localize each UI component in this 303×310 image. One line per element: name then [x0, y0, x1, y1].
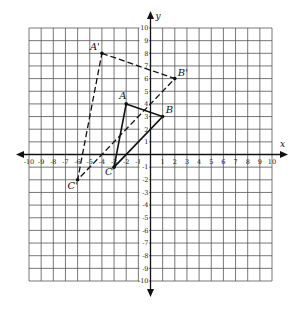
y-tick-label: -8: [142, 252, 148, 260]
y-tick-label: -9: [142, 265, 148, 273]
x-tick-label: 3: [185, 158, 189, 166]
vertex-point: [100, 52, 104, 56]
vertex-label: B': [177, 67, 188, 78]
y-tick-label: 5: [144, 88, 148, 96]
vertex-point: [161, 115, 165, 119]
y-tick-label: 6: [144, 75, 148, 83]
x-tick-label: 7: [233, 158, 237, 166]
y-axis-arrow-down-icon: [147, 289, 154, 297]
x-tick-label: 9: [258, 158, 262, 166]
y-tick-label: 9: [144, 37, 148, 45]
vertex-point: [173, 77, 177, 81]
y-tick-label: 8: [144, 50, 148, 58]
x-tick-label: 4: [197, 158, 201, 166]
x-tick-label: 2: [173, 158, 177, 166]
x-tick-label: 6: [221, 158, 225, 166]
y-tick-label: -6: [142, 227, 148, 235]
y-tick-label: 3: [144, 113, 148, 121]
x-tick-label: -2: [123, 158, 129, 166]
x-tick-label: 1: [161, 158, 165, 166]
x-tick-label: -7: [62, 158, 68, 166]
y-tick-label: 4: [144, 100, 148, 108]
y-axis-arrow-up-icon: [147, 11, 154, 19]
y-axis-label: y: [155, 11, 162, 21]
x-tick-label: 5: [209, 158, 213, 166]
x-tick-label: -9: [38, 158, 44, 166]
y-tick-label: -1: [142, 163, 148, 171]
vertex-label: A: [118, 90, 126, 101]
x-tick-label: -10: [24, 158, 34, 166]
y-tick-label: -4: [142, 201, 148, 209]
y-tick-label: -7: [142, 239, 148, 247]
vertex-label: C': [68, 180, 78, 191]
coordinate-plane: x y -10-9-8-7-6-5-4-3-2-112345678910 109…: [0, 0, 303, 310]
x-tick-label: -5: [87, 158, 93, 166]
x-axis-label: x: [280, 139, 285, 149]
y-tick-label: -3: [142, 189, 148, 197]
triangle-a-prime-b-prime-c-prime: A'B'C': [68, 41, 188, 191]
vertex-point: [124, 102, 128, 106]
x-tick-label: 8: [246, 158, 250, 166]
axes: x y: [16, 11, 288, 297]
x-tick-label: -4: [99, 158, 105, 166]
vertex-point: [112, 165, 116, 169]
y-tick-label: 10: [140, 24, 148, 32]
y-tick-label: -10: [138, 277, 148, 285]
x-tick-label: 10: [268, 158, 276, 166]
x-tick-label: -6: [74, 158, 80, 166]
y-tick-label: -5: [142, 214, 148, 222]
x-tick-label: -8: [50, 158, 56, 166]
vertex-label: A': [89, 41, 100, 52]
y-tick-label: -2: [142, 176, 148, 184]
vertex-label: B: [165, 104, 173, 115]
y-tick-label: 1: [144, 138, 148, 146]
vertex-label: C: [105, 166, 113, 177]
x-axis-arrow-right-icon: [280, 151, 288, 158]
